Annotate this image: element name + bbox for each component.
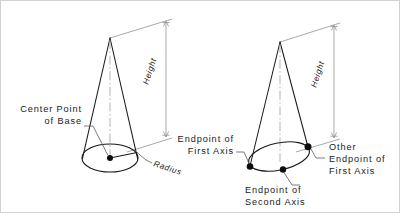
cone-geometry-diagram: Center Point of Base Radius Height	[0, 0, 400, 213]
left-upper-extension-line	[110, 19, 172, 38]
left-center-point-label-line1: Center Point	[20, 104, 82, 114]
diagram-canvas: Center Point of Base Radius Height	[0, 0, 400, 213]
right-second-axis-endpoint-label-line2: Second Axis	[245, 197, 305, 207]
right-first-axis-endpoint-dot	[247, 163, 254, 170]
right-cone-left-slant	[250, 42, 280, 166]
left-center-point-label-line2: of Base	[45, 116, 82, 126]
right-height-dimension	[280, 23, 340, 152]
left-cone-right-slant	[110, 38, 138, 159]
right-height-label: Height	[309, 60, 326, 89]
right-second-axis-endpoint-dot	[280, 166, 286, 172]
left-cone-left-slant	[82, 38, 110, 159]
right-other-endpoint-leader	[311, 149, 325, 158]
right-upper-extension-line	[280, 23, 340, 42]
left-radius-leader	[137, 153, 152, 164]
right-other-endpoint-label-line2: Endpoint of	[329, 154, 385, 164]
right-second-axis-endpoint-leader	[284, 173, 300, 186]
right-first-axis-endpoint-label-line2: First Axis	[188, 146, 234, 156]
right-first-axis-endpoint-leader	[236, 152, 249, 164]
right-first-axis-endpoint-label-line1: Endpoint of	[178, 134, 234, 144]
left-radius-label: Radius	[152, 159, 182, 177]
right-cone-group: Endpoint of First Axis Other Endpoint of…	[178, 23, 386, 207]
left-center-point-leader	[84, 126, 108, 156]
right-second-axis-endpoint-label-line1: Endpoint of	[245, 185, 301, 195]
right-other-endpoint-label-line3: First Axis	[329, 166, 375, 176]
right-cone-right-slant	[280, 42, 308, 147]
left-cone-group: Center Point of Base Radius Height	[20, 19, 183, 177]
right-other-endpoint-label-line1: Other	[329, 142, 356, 152]
left-height-label: Height	[141, 57, 158, 86]
left-cone-center-point-dot	[107, 155, 113, 161]
right-other-first-axis-endpoint-dot	[305, 143, 312, 150]
left-cone-radius-line	[110, 153, 137, 159]
left-height-dimension	[110, 19, 172, 152]
